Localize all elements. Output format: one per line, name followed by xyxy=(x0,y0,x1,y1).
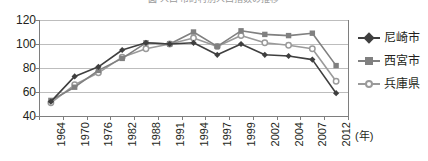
data-point xyxy=(262,32,267,37)
data-point xyxy=(48,99,54,105)
square-marker-icon xyxy=(358,55,380,67)
y-tick-label: 40 xyxy=(3,110,36,122)
x-tick-mark xyxy=(134,116,135,120)
data-point xyxy=(119,47,125,53)
x-tick-label: 1997 xyxy=(222,122,233,146)
x-tick-mark xyxy=(324,116,325,120)
data-point xyxy=(48,100,53,105)
data-point xyxy=(310,31,315,36)
data-point xyxy=(191,35,196,40)
x-tick-mark xyxy=(182,116,183,120)
y-axis: 120100806040 xyxy=(0,0,36,161)
x-tick-label: 1994 xyxy=(199,122,210,146)
x-tick-mark xyxy=(229,116,230,120)
legend-item-amagasaki[interactable]: 尼崎市 xyxy=(358,26,428,49)
data-point xyxy=(96,70,101,75)
x-tick-label: 1988 xyxy=(151,122,162,146)
data-point xyxy=(191,29,196,34)
legend-label-nishinomiya: 西宮市 xyxy=(384,55,420,67)
x-tick-mark xyxy=(300,116,301,120)
x-tick-mark xyxy=(253,116,254,120)
data-point xyxy=(48,98,53,103)
x-tick-mark xyxy=(277,116,278,120)
gridline xyxy=(39,116,349,117)
data-point xyxy=(72,82,77,87)
legend-item-nishinomiya[interactable]: 西宮市 xyxy=(358,49,428,72)
y-tick-label: 60 xyxy=(3,86,36,98)
gridline xyxy=(39,92,349,93)
x-tick-label: 1976 xyxy=(103,122,114,146)
open-circle-marker-icon xyxy=(358,78,380,90)
x-tick-label: 2004 xyxy=(294,122,305,146)
data-point xyxy=(72,85,77,90)
series-line-西宮市 xyxy=(51,31,336,101)
data-point xyxy=(214,52,220,58)
legend-item-hyogo[interactable]: 兵庫県 xyxy=(358,72,428,95)
data-point xyxy=(286,33,291,38)
x-tick-mark xyxy=(348,116,349,120)
x-tick-mark xyxy=(87,116,88,120)
diamond-marker-icon xyxy=(358,32,380,44)
data-point xyxy=(285,53,291,59)
legend-label-hyogo: 兵庫県 xyxy=(384,78,420,90)
x-tick-mark xyxy=(63,116,64,120)
y-tick-label: 120 xyxy=(3,14,36,26)
data-point xyxy=(72,73,78,79)
legend: 尼崎市 西宮市 兵庫県 xyxy=(358,26,428,95)
gridline xyxy=(39,68,349,69)
plot-right-border xyxy=(348,20,349,116)
gridline xyxy=(39,20,349,21)
data-point xyxy=(119,56,124,61)
x-tick-label: 1991 xyxy=(175,122,186,146)
data-point xyxy=(333,79,338,84)
gridline xyxy=(39,44,349,45)
x-tick-mark xyxy=(158,116,159,120)
x-tick-mark xyxy=(39,116,40,120)
data-point xyxy=(238,33,243,38)
data-point xyxy=(143,46,148,51)
y-axis-line xyxy=(39,20,40,116)
x-tick-label: 1999 xyxy=(246,122,257,146)
data-point xyxy=(310,46,315,51)
x-tick-mark xyxy=(110,116,111,120)
x-tick-label: 1964 xyxy=(56,122,67,146)
x-axis-unit-label: (年) xyxy=(355,131,373,142)
x-tick-label: 1970 xyxy=(80,122,91,146)
x-tick-mark xyxy=(205,116,206,120)
chart-title-clipped: 図 人口 市町村別人口指数の推移 xyxy=(0,0,428,9)
data-point xyxy=(238,28,243,33)
data-point xyxy=(119,55,124,60)
x-tick-label: 2007 xyxy=(317,122,328,146)
legend-label-amagasaki: 尼崎市 xyxy=(384,32,420,44)
population-index-line-chart: 図 人口 市町村別人口指数の推移 120100806040 1964197019… xyxy=(0,0,428,161)
y-tick-label: 100 xyxy=(3,38,36,50)
data-point xyxy=(309,57,315,63)
x-tick-label: 2012 xyxy=(341,122,352,146)
data-point xyxy=(262,52,268,58)
y-tick-label: 80 xyxy=(3,62,36,74)
x-tick-label: 1982 xyxy=(127,122,138,146)
x-tick-label: 2002 xyxy=(270,122,281,146)
chart-title-text: 図 人口 市町村別人口指数の推移 xyxy=(0,0,428,4)
